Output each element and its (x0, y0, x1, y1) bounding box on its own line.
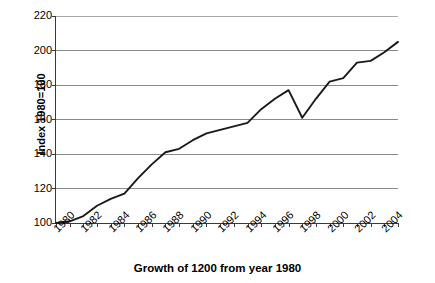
y-tick-label: 200 (26, 45, 52, 56)
line-chart: Index 1980=100 100120140160180200220 198… (0, 0, 435, 283)
x-axis-title: Growth of 1200 from year 1980 (0, 262, 435, 274)
plot-area (55, 16, 398, 224)
y-tick-label: 120 (26, 183, 52, 194)
y-tick-label: 140 (26, 148, 52, 159)
x-axis-tick-labels: 1980198219841986198819901992199419961998… (55, 226, 397, 262)
y-tick-label: 220 (26, 10, 52, 21)
y-axis-tick-labels: 100120140160180200220 (24, 0, 52, 283)
y-tick-label: 180 (26, 79, 52, 90)
y-tick-label: 100 (26, 217, 52, 228)
series-polyline (56, 42, 398, 223)
data-series-line (56, 16, 398, 223)
y-tick-label: 160 (26, 114, 52, 125)
